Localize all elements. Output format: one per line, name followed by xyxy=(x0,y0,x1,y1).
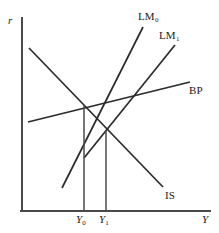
lm0-label-subscript: 0 xyxy=(155,16,159,24)
lm1-curve-label: LM1 xyxy=(159,30,179,41)
lm1-label-subscript: 1 xyxy=(176,35,180,43)
lm0-label-text: LM xyxy=(138,10,155,22)
is-curve-label: IS xyxy=(165,190,175,201)
lm0-curve-label: LM0 xyxy=(138,11,158,22)
diagram-canvas xyxy=(0,0,219,233)
y0-tick-label: Y0 xyxy=(76,214,86,225)
bp-curve-label: BP xyxy=(189,85,203,96)
lm0-curve xyxy=(62,27,143,188)
lm1-label-text: LM xyxy=(159,29,176,41)
y1-tick-label: Y1 xyxy=(99,214,109,225)
y1-tick-subscript: 1 xyxy=(105,219,109,227)
y-axis-label: r xyxy=(8,15,12,26)
is-lm-bp-diagram: r Y LM0 LM1 BP IS Y0 Y1 xyxy=(0,0,219,233)
y0-tick-subscript: 0 xyxy=(82,219,86,227)
lm1-curve xyxy=(84,45,175,158)
x-axis-label: Y xyxy=(202,214,208,225)
bp-curve xyxy=(28,82,190,122)
